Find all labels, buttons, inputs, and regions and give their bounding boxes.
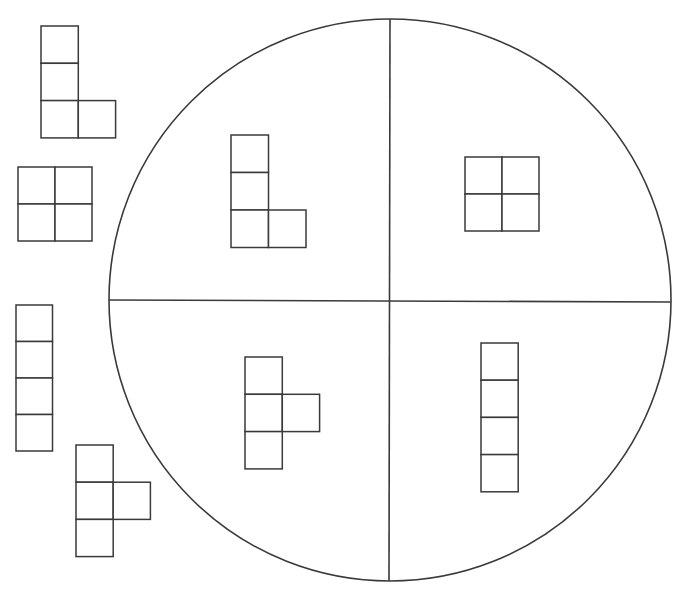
piece-cell (76, 519, 113, 556)
piece-cell (76, 445, 113, 482)
piece-cell (113, 482, 150, 519)
piece-cell (269, 210, 307, 248)
piece-cell (245, 357, 282, 394)
vertical-divider (389, 19, 390, 581)
piece-cell (78, 101, 115, 138)
piece-cell (231, 173, 269, 211)
piece-cell (481, 380, 518, 417)
quadrant-piece-i-tetromino (481, 343, 518, 492)
loose-piece-t-tetromino[interactable] (76, 445, 150, 557)
quadrant-piece-l-tetromino (231, 135, 306, 248)
piece-cell (231, 210, 269, 248)
piece-cell (245, 394, 282, 431)
piece-cell (55, 167, 92, 204)
piece-cell (245, 432, 282, 469)
loose-piece-l-tetromino[interactable] (41, 26, 116, 138)
piece-cell (18, 167, 55, 204)
piece-cell (41, 101, 78, 138)
piece-cell (231, 135, 269, 173)
piece-cell (465, 157, 502, 194)
loose-piece-o-tetromino[interactable] (18, 167, 92, 241)
piece-cell (16, 305, 53, 342)
piece-cell (41, 26, 78, 63)
quadrant-piece-o-tetromino (465, 157, 539, 231)
piece-cell (481, 343, 518, 380)
sorting-circle (109, 19, 671, 581)
horizontal-divider (109, 300, 671, 302)
piece-cell (76, 482, 113, 519)
piece-cell (16, 415, 53, 452)
piece-cell (16, 342, 53, 379)
piece-cell (282, 394, 319, 431)
piece-cell (41, 63, 78, 100)
piece-cell (502, 194, 539, 231)
piece-cell (465, 194, 502, 231)
piece-cell (481, 455, 518, 492)
piece-cell (18, 204, 55, 241)
piece-cell (481, 417, 518, 454)
piece-cell (16, 378, 53, 415)
loose-piece-i-tetromino[interactable] (16, 305, 53, 451)
piece-cell (502, 157, 539, 194)
quadrant-piece-t-tetromino (245, 357, 320, 469)
worksheet-canvas (0, 0, 682, 591)
piece-cell (55, 204, 92, 241)
